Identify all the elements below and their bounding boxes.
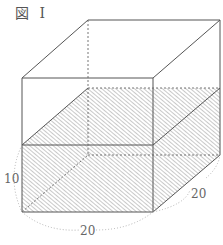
cuboid-diagram: 10 20 20 (0, 0, 223, 245)
side-depth-label: 20 (191, 187, 206, 201)
height-label: 10 (4, 172, 19, 186)
front-width-label: 20 (80, 224, 95, 238)
